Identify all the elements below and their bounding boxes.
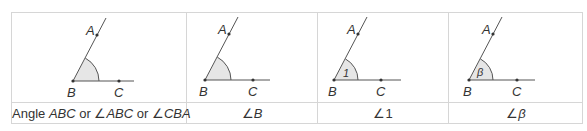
point-a: [95, 33, 98, 36]
label-a: A: [85, 23, 95, 38]
label-c: C: [376, 84, 386, 99]
label-a: A: [346, 22, 356, 37]
point-c: [515, 78, 518, 81]
angle-notation-table: A B C Angle ABC or ∠ABC or ∠CBA A B C ∠B: [11, 12, 583, 124]
angle-1-diagram: A B C 1: [318, 13, 448, 102]
point-c: [117, 79, 120, 82]
caption-angle-abc: Angle ABC or ∠ABC or ∠CBA: [12, 103, 186, 124]
point-b: [467, 78, 470, 81]
label-b: B: [463, 84, 472, 99]
angle-beta-diagram: A B C β: [449, 13, 583, 102]
angle-arc-shading: [205, 57, 231, 80]
point-a: [356, 32, 359, 35]
point-a: [227, 32, 230, 35]
point-b: [203, 78, 206, 81]
point-b: [71, 79, 74, 82]
label-a: A: [481, 22, 491, 37]
diagram-cell-4: A B C β: [449, 13, 583, 102]
point-b: [332, 78, 335, 81]
angle-b-diagram: A B C: [187, 13, 317, 102]
label-c: C: [512, 84, 522, 99]
label-b: B: [67, 85, 76, 100]
point-a: [491, 32, 494, 35]
angle-arc-shading: [73, 58, 99, 81]
label-c: C: [248, 84, 258, 99]
diagram-cell-3: A B C 1: [318, 13, 448, 102]
angle-marker-label: β: [476, 66, 484, 78]
angle-marker-label: 1: [343, 67, 349, 79]
label-b: B: [199, 84, 208, 99]
caption-angle-beta: ∠β: [449, 103, 583, 124]
caption-angle-b: ∠B: [187, 103, 317, 124]
point-c: [251, 78, 254, 81]
label-b: B: [328, 84, 337, 99]
label-a: A: [217, 22, 227, 37]
point-c: [379, 78, 382, 81]
diagram-cell-2: A B C: [187, 13, 317, 102]
diagram-cell-1: A B C: [12, 13, 186, 102]
angle-abc-diagram: A B C: [12, 13, 186, 102]
label-c: C: [114, 85, 124, 100]
caption-angle-1: ∠1: [318, 103, 448, 124]
